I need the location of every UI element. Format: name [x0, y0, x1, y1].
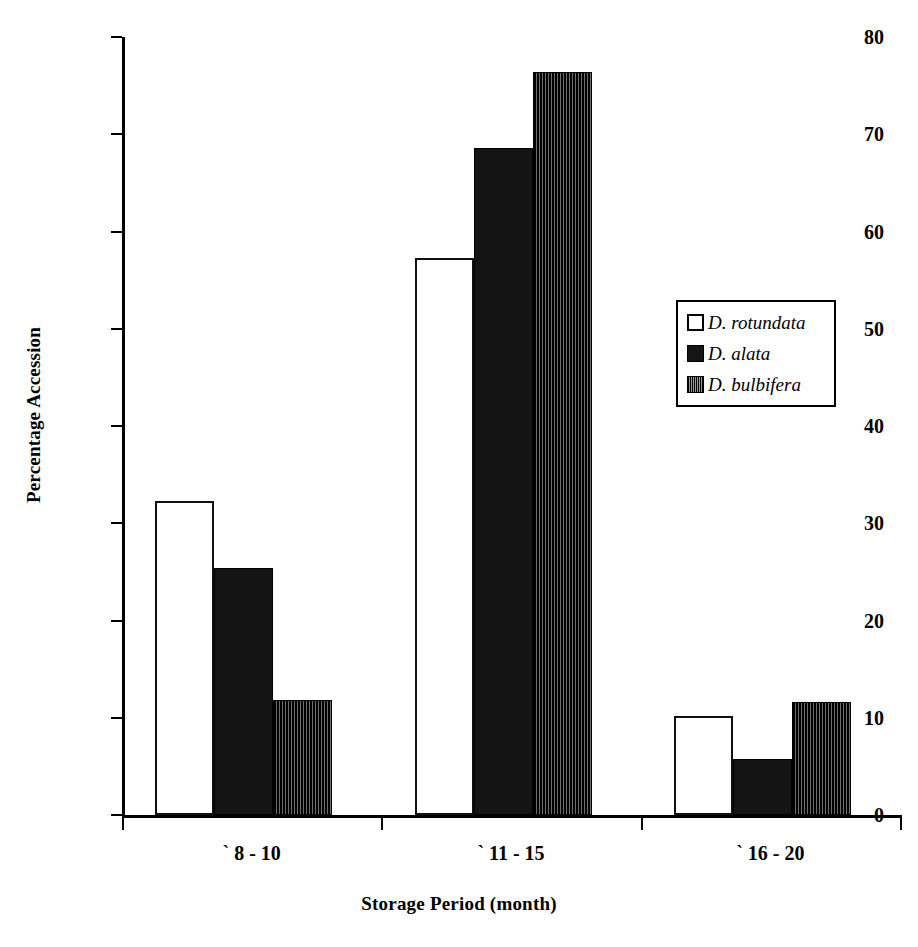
x-tick-mark	[900, 817, 902, 830]
bar-rotundata-1	[415, 258, 474, 815]
bar-bulbifera-0	[273, 700, 332, 815]
y-tick-mark	[111, 522, 122, 524]
x-axis-line	[122, 815, 902, 818]
y-tick-label: 60	[814, 222, 884, 242]
y-tick-label: 70	[814, 124, 884, 144]
x-tick-label: ` 16 - 20	[660, 843, 880, 863]
legend-label-alata: D. alata	[708, 344, 770, 363]
y-tick-label: 80	[814, 27, 884, 47]
y-tick-mark	[111, 328, 122, 330]
y-axis-line	[122, 37, 125, 816]
x-tick-label: ` 11 - 15	[401, 843, 621, 863]
x-tick-mark	[122, 817, 124, 830]
x-axis-title: Storage Period (month)	[0, 893, 918, 915]
y-tick-mark	[111, 425, 122, 427]
x-tick-label: ` 8 - 10	[142, 843, 362, 863]
bar-chart-figure: Percentage Accession Storage Period (mon…	[0, 0, 918, 947]
y-tick-label: 20	[814, 611, 884, 631]
y-axis-title: Percentage Accession	[23, 295, 45, 535]
bar-rotundata-2	[674, 716, 733, 815]
y-tick-mark	[111, 231, 122, 233]
legend-label-rotundata: D. rotundata	[708, 313, 805, 332]
legend-item-bulbifera: D. bulbifera	[687, 369, 834, 400]
y-tick-label: 30	[814, 513, 884, 533]
legend-swatch-icon-rotundata	[687, 314, 704, 331]
legend-swatch-icon-alata	[687, 345, 704, 362]
bar-alata-0	[214, 568, 273, 815]
bar-bulbifera-2	[792, 702, 851, 815]
legend-swatch-icon-bulbifera	[687, 376, 704, 393]
bar-alata-2	[733, 759, 792, 815]
y-tick-mark	[111, 133, 122, 135]
legend-item-rotundata: D. rotundata	[687, 307, 834, 338]
y-tick-mark	[111, 36, 122, 38]
legend: D. rotundata D. alata D. bulbifera	[676, 300, 836, 407]
legend-label-bulbifera: D. bulbifera	[708, 375, 801, 394]
x-tick-mark	[381, 817, 383, 830]
legend-item-alata: D. alata	[687, 338, 834, 369]
plot-area: 01020304050607080 ` 8 - 10` 11 - 15` 16 …	[122, 37, 900, 815]
bar-alata-1	[474, 148, 533, 815]
x-tick-mark	[641, 817, 643, 830]
y-tick-label: 40	[814, 416, 884, 436]
y-tick-mark	[111, 717, 122, 719]
bar-bulbifera-1	[533, 72, 592, 815]
y-tick-mark	[111, 814, 122, 816]
bar-rotundata-0	[155, 501, 214, 815]
y-tick-mark	[111, 620, 122, 622]
